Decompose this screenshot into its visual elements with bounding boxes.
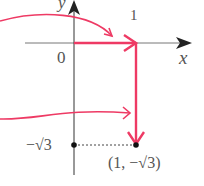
point-y-intercept <box>71 142 77 148</box>
coordinate-diagram <box>0 0 204 186</box>
curved-pointer-arrow-1 <box>0 15 112 36</box>
tick-y-label: −√3 <box>26 137 52 153</box>
point-target <box>133 142 139 148</box>
origin-label: 0 <box>57 49 66 66</box>
x-axis-label: x <box>179 48 187 67</box>
curved-pointer-arrow-2 <box>0 112 130 119</box>
tick-x-label: 1 <box>130 8 138 23</box>
y-axis-label: y <box>58 0 66 11</box>
point-label: (1, −√3) <box>108 155 160 171</box>
